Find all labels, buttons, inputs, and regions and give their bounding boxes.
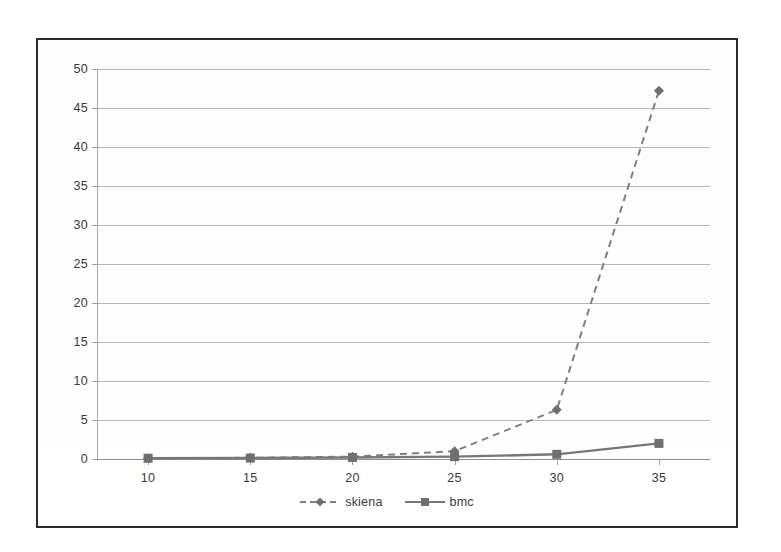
x-axis-label-35: 35 [652,471,667,485]
y-axis-label-40: 40 [73,140,88,154]
y-axis-label-30: 30 [73,218,88,232]
chart-legend: skiena bmc [38,495,736,509]
y-axis-label-5: 5 [81,413,88,427]
series-line-bmc [148,443,659,458]
data-point-skiena-30 [552,405,562,415]
data-point-bmc-10 [144,454,153,463]
x-tick-35 [659,459,660,465]
x-axis-label-10: 10 [141,471,156,485]
y-axis-label-15: 15 [73,335,88,349]
data-point-bmc-35 [654,439,663,448]
y-axis-label-45: 45 [73,101,88,115]
y-axis-label-25: 25 [73,257,88,271]
data-point-bmc-25 [450,452,459,461]
chart-figure: 05101520253035404550 101520253035 skiena… [36,38,738,528]
series-line-skiena [148,91,659,458]
data-point-skiena-35 [654,86,664,96]
y-axis-label-10: 10 [73,374,88,388]
x-axis-label-15: 15 [243,471,258,485]
legend-label-skiena: skiena [345,495,382,509]
legend-entry-skiena: skiena [300,495,382,509]
legend-entry-bmc: bmc [405,495,474,509]
y-axis-label-35: 35 [73,179,88,193]
data-point-bmc-20 [348,453,357,462]
x-axis-label-25: 25 [447,471,462,485]
data-point-bmc-30 [552,450,561,459]
y-axis-label-20: 20 [73,296,88,310]
legend-marker-square-icon [405,496,445,508]
y-axis-label-50: 50 [73,62,88,76]
x-tick-30 [557,459,558,465]
series-layer [97,69,710,459]
x-axis-label-20: 20 [345,471,360,485]
y-tick-0 [92,459,97,460]
data-point-bmc-15 [246,454,255,463]
x-axis-label-30: 30 [549,471,564,485]
plot-area: 05101520253035404550 101520253035 [97,69,710,459]
legend-label-bmc: bmc [450,495,474,509]
y-axis-label-0: 0 [81,452,88,466]
legend-marker-diamond-icon [300,496,340,508]
